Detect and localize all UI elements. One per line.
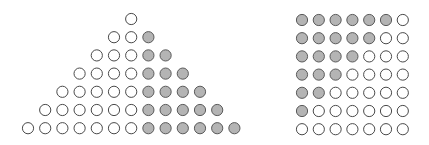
gray-dot [330,14,341,25]
gray-dot [347,14,358,25]
gray-dot [313,87,324,98]
white-dot [126,123,137,134]
white-dot [57,123,68,134]
white-dot [364,105,375,116]
white-dot [296,124,307,135]
white-dot [397,14,408,25]
gray-dot [160,104,171,115]
white-dot [397,124,408,135]
gray-dot [330,51,341,62]
white-dot [330,87,341,98]
gray-dot [143,104,154,115]
white-dot [380,69,391,80]
white-dot [91,68,102,79]
gray-dot [296,69,307,80]
gray-dot [160,123,171,134]
white-dot [126,104,137,115]
white-dot [126,13,137,24]
gray-dot [330,69,341,80]
white-dot [91,86,102,97]
gray-dot [143,50,154,61]
white-dot [57,86,68,97]
gray-dot [160,68,171,79]
gray-dot [160,86,171,97]
gray-dot [313,69,324,80]
gray-dot [143,68,154,79]
gray-dot [380,14,391,25]
white-dot [108,104,119,115]
gray-dot [143,32,154,43]
gray-dot [143,86,154,97]
white-dot [397,69,408,80]
white-dot [330,124,341,135]
white-dot [364,124,375,135]
gray-dot [160,50,171,61]
gray-dot [194,123,205,134]
gray-dot [194,86,205,97]
white-dot [347,87,358,98]
white-dot [74,68,85,79]
white-dot [380,124,391,135]
white-dot [74,86,85,97]
gray-dot [313,51,324,62]
white-dot [40,104,51,115]
white-dot [313,124,324,135]
gray-dot [177,104,188,115]
white-dot [108,123,119,134]
gray-dot [177,86,188,97]
white-dot [364,87,375,98]
white-dot [126,68,137,79]
white-dot [57,104,68,115]
gray-dot [212,104,223,115]
gray-dot [194,104,205,115]
white-dot [22,123,33,134]
white-dot [364,69,375,80]
white-dot [330,105,341,116]
white-dot [347,124,358,135]
white-dot [397,105,408,116]
white-dot [380,51,391,62]
white-dot [108,68,119,79]
white-dot [74,104,85,115]
dot-diagram [0,0,429,145]
gray-dot [330,33,341,44]
gray-dot [177,123,188,134]
gray-dot [347,33,358,44]
gray-dot [177,68,188,79]
gray-dot [296,87,307,98]
gray-dot [296,14,307,25]
white-dot [380,87,391,98]
gray-dot [143,123,154,134]
white-dot [74,123,85,134]
white-dot [40,123,51,134]
white-dot [91,123,102,134]
white-dot [364,51,375,62]
white-dot [126,50,137,61]
gray-dot [296,33,307,44]
white-dot [397,33,408,44]
gray-dot [364,14,375,25]
triangle-dot-arrangement [22,13,240,133]
gray-dot [313,14,324,25]
white-dot [91,50,102,61]
white-dot [108,86,119,97]
white-dot [91,104,102,115]
white-dot [380,105,391,116]
white-dot [380,33,391,44]
gray-dot [229,123,240,134]
gray-dot [347,51,358,62]
gray-dot [212,123,223,134]
white-dot [397,51,408,62]
white-dot [397,87,408,98]
gray-dot [313,33,324,44]
white-dot [347,69,358,80]
white-dot [108,50,119,61]
white-dot [126,86,137,97]
white-dot [108,32,119,43]
white-dot [126,32,137,43]
gray-dot [296,51,307,62]
gray-dot [364,33,375,44]
white-dot [347,105,358,116]
white-dot [313,105,324,116]
square-dot-grid [296,14,408,134]
